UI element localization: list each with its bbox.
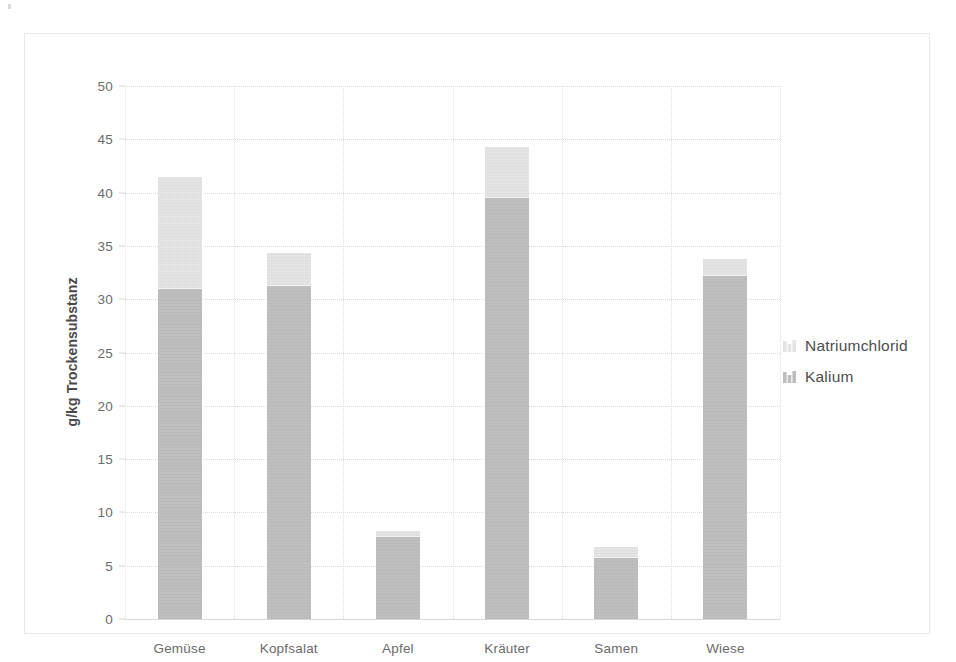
- category-separator: [343, 86, 344, 619]
- y-tick-label: 15: [98, 452, 113, 467]
- plot-area: 05101520253035404550 GemüseKopfsalatApfe…: [125, 86, 780, 619]
- legend-item[interactable]: Natriumchlorid: [783, 337, 908, 355]
- category-separator: [453, 86, 454, 619]
- y-tick-mark: [119, 245, 125, 246]
- y-tick-label: 5: [105, 558, 113, 573]
- bar-segment-kalium[interactable]: [158, 289, 202, 619]
- stacked-bar[interactable]: [485, 147, 529, 619]
- y-axis-title: g/kg Trockensubstanz: [64, 277, 80, 426]
- y-tick-mark: [119, 139, 125, 140]
- y-tick-label: 25: [98, 345, 113, 360]
- stacked-bar[interactable]: [594, 547, 638, 619]
- category-separator: [234, 86, 235, 619]
- x-tick-label: Gemüse: [153, 641, 205, 656]
- stacked-bar[interactable]: [267, 253, 311, 619]
- y-tick-mark: [119, 86, 125, 87]
- y-tick-label: 30: [98, 292, 113, 307]
- bar-swatch-icon: [783, 371, 796, 383]
- y-tick-mark: [119, 565, 125, 566]
- bar-segment-natriumchlorid[interactable]: [267, 253, 311, 286]
- y-tick-label: 20: [98, 398, 113, 413]
- stacked-bar[interactable]: [158, 177, 202, 619]
- bar-segment-natriumchlorid[interactable]: [485, 147, 529, 198]
- x-tick-label: Kräuter: [484, 641, 530, 656]
- y-tick-label: 40: [98, 185, 113, 200]
- chart-legend: NatriumchloridKalium: [783, 337, 908, 386]
- y-tick-mark: [119, 512, 125, 513]
- y-tick-label: 0: [105, 612, 113, 627]
- legend-label: Natriumchlorid: [805, 337, 908, 355]
- category-separator: [671, 86, 672, 619]
- category-separator: [562, 86, 563, 619]
- category-separator: [780, 86, 781, 619]
- y-tick-mark: [119, 299, 125, 300]
- bar-segment-natriumchlorid[interactable]: [594, 547, 638, 559]
- y-tick-mark: [119, 405, 125, 406]
- x-tick-label: Apfel: [382, 641, 414, 656]
- y-tick-mark: [119, 619, 125, 620]
- y-tick-label: 45: [98, 132, 113, 147]
- x-tick-label: Kopfsalat: [260, 641, 318, 656]
- x-tick-label: Wiese: [706, 641, 745, 656]
- bar-swatch-icon: [783, 340, 796, 352]
- legend-label: Kalium: [805, 368, 854, 386]
- y-tick-mark: [119, 459, 125, 460]
- bar-segment-kalium[interactable]: [594, 558, 638, 619]
- y-tick-mark: [119, 352, 125, 353]
- stacked-bar[interactable]: [376, 531, 420, 619]
- bar-segment-natriumchlorid[interactable]: [703, 259, 747, 276]
- bar-segment-kalium[interactable]: [376, 537, 420, 619]
- category-separator: [125, 86, 126, 619]
- y-tick-label: 10: [98, 505, 113, 520]
- gridline: [125, 619, 780, 620]
- bar-segment-natriumchlorid[interactable]: [158, 177, 202, 289]
- y-tick-mark: [119, 192, 125, 193]
- x-tick-label: Samen: [594, 641, 638, 656]
- bar-segment-kalium[interactable]: [703, 276, 747, 619]
- y-tick-label: 50: [98, 79, 113, 94]
- chart-frame: g/kg Trockensubstanz 0510152025303540455…: [24, 33, 930, 634]
- y-tick-label: 35: [98, 238, 113, 253]
- scan-speck: [8, 4, 11, 9]
- bar-segment-kalium[interactable]: [267, 286, 311, 619]
- bar-segment-kalium[interactable]: [485, 198, 529, 619]
- legend-item[interactable]: Kalium: [783, 368, 908, 386]
- stacked-bar[interactable]: [703, 259, 747, 619]
